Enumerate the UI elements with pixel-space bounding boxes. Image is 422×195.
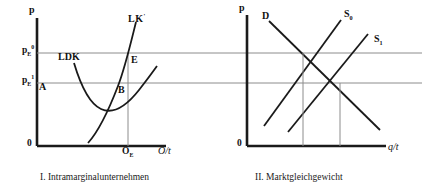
panel-2-axes bbox=[247, 15, 386, 146]
panel-1-tick-o-e: OE bbox=[122, 147, 133, 159]
tick-o-sub: E bbox=[129, 152, 133, 158]
panel-1-caption: I. Intramarginalunternehmen bbox=[40, 172, 149, 182]
curve-label-s0-sub: 0 bbox=[350, 14, 353, 21]
tick-p-sup: 1 bbox=[31, 74, 34, 80]
curve-label-lk-text: LK bbox=[128, 13, 143, 24]
diagram-svg bbox=[0, 0, 422, 195]
panel-1-tick-p-e-0: pE0 bbox=[22, 45, 34, 58]
panel-2-y-axis-label: p bbox=[239, 3, 245, 13]
tick-p-sup: 0 bbox=[31, 44, 34, 50]
panel-1-x-axis-label: O/t bbox=[158, 146, 171, 156]
curve-label-lk-prime: ' bbox=[143, 12, 145, 19]
curve-label-lk: LK' bbox=[128, 13, 146, 24]
panel-1-y-axis-label: p bbox=[29, 5, 35, 15]
curve-label-demand: D bbox=[262, 11, 269, 21]
panel-2-x-axis-label: q/t bbox=[388, 142, 399, 152]
curve-label-ldk: LDK bbox=[58, 52, 80, 62]
panel-1-tick-p-e-1: pE1 bbox=[22, 75, 34, 88]
tick-p-sub: E bbox=[27, 51, 31, 57]
panel-1-origin-label: 0 bbox=[27, 139, 32, 149]
curve-label-s1-sub: 1 bbox=[380, 39, 383, 46]
figure-canvas: p pE0 pE1 A B E LK' LDK OE O/t 0 p D S0 … bbox=[0, 0, 422, 195]
panel-2-origin-label: 0 bbox=[237, 139, 242, 149]
panel-1-point-e-label: E bbox=[131, 55, 138, 65]
curve-demand bbox=[269, 21, 380, 130]
panel-1-point-b-label: B bbox=[118, 85, 125, 95]
curve-label-supply-0: S0 bbox=[344, 9, 353, 21]
panel-1-axes bbox=[37, 18, 166, 146]
panel-2-caption: II. Marktgleichgewicht bbox=[255, 172, 343, 182]
curve-ldk-average-cost bbox=[74, 63, 157, 111]
tick-p-sub: E bbox=[27, 81, 31, 87]
curve-label-supply-1: S1 bbox=[374, 34, 383, 46]
price-gridlines bbox=[37, 53, 422, 83]
panel-1-point-a-label: A bbox=[39, 82, 46, 92]
